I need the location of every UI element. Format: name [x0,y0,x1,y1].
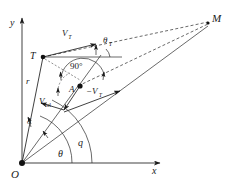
point-label-M: M [211,12,222,24]
arc-90-right-arrowhead [103,72,104,80]
angle-label-theta-T: θ T [103,35,113,47]
vector-label-Vrel: V rel [39,96,52,108]
length-label-r: r [26,76,30,86]
line-T-to-M [43,22,208,57]
arc-theta [40,116,72,163]
arc-theta-arrowhead [43,131,48,138]
vector-label-VT-sub: T [69,34,73,40]
angle-label-theta-T-base: θ [103,35,108,45]
vector-label-VT: V T [62,28,73,40]
diagram-svg: y x O T A M r V T −V T V rel θ T [0,0,235,186]
arc-theta-T [106,49,110,57]
point-marker-T [41,55,46,60]
angle-label-q: q [78,137,83,148]
vector-label-Vrel-sub: rel [46,102,52,108]
angle-label-theta: θ [58,148,63,159]
x-axis-label: x [151,165,157,176]
angle-label-delta: δ [27,117,31,126]
y-axis-label: y [9,17,15,28]
arc-90-left-arrowhead [61,72,62,80]
point-label-T: T [30,50,37,61]
line-A-to-M [78,24,208,86]
vector-label-negVT: −V T [86,86,103,98]
vector-VT-at-T [43,44,96,57]
point-marker-M [206,21,209,24]
point-marker-O [19,160,25,166]
vector-label-negVT-sub: T [99,92,103,98]
angle-label-theta-T-sub: T [109,41,113,47]
vector-label-negVT-base: −V [86,86,99,96]
segment-r-O-to-T [22,57,43,163]
line-O-to-M [22,26,208,163]
angle-label-90-degrees: 90° [70,61,83,71]
figure-canvas: y x O T A M r V T −V T V rel θ T [0,0,235,186]
point-label-A: A [68,84,75,94]
origin-label-O: O [11,168,19,180]
